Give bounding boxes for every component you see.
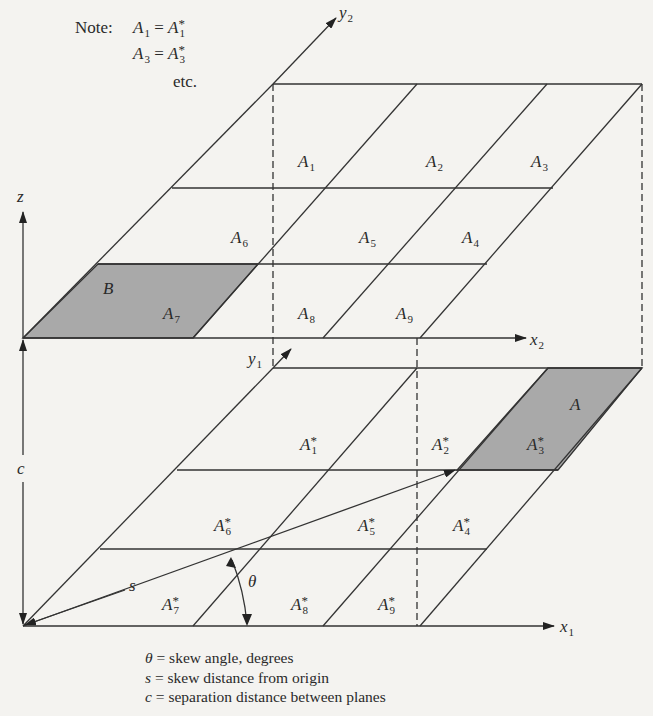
legend-c: c = separation distance between planes [145,687,386,707]
cell-a9: A9 [396,305,413,325]
y1-axis-label: y1 [248,350,262,370]
y2-axis-label: y2 [339,4,353,24]
theta-label: θ [248,573,256,590]
note-etc: etc. [173,73,197,90]
cell-a5: A5 [359,229,376,249]
cell-a3-star: A*3 [527,436,546,453]
x2-axis-label: x2 [530,331,544,351]
cell-a-label: A [570,396,580,413]
z-axis-label: z [17,188,24,205]
cell-a8-star: A*8 [291,596,310,613]
cell-a3: A3 [531,153,548,173]
top-shaded-cell-b [23,264,258,338]
dashed-projection-lines [273,84,642,626]
cell-a4-star: A*4 [453,517,472,534]
bottom-shaded-cell-a [457,368,642,470]
note-line-1: A1 = A*1 [133,19,187,39]
cell-a7: A7 [163,305,180,325]
cell-b-label: B [103,280,113,297]
cell-a7-star: A*7 [162,596,181,613]
y2-axis [273,18,336,84]
cell-a6: A6 [231,229,248,249]
cell-a1-star: A*1 [300,436,319,453]
cell-a4: A4 [462,229,479,249]
cell-a9-star: A*9 [378,596,397,613]
y1-axis [273,349,291,368]
legend-theta: θ = skew angle, degrees [145,648,386,668]
cell-a2-star: A*2 [432,436,451,453]
x1-axis-label: x1 [560,618,574,638]
note-prefix: Note: [75,18,113,37]
s-label: s [129,577,136,594]
note-line-2: A3 = A*3 [133,45,187,65]
cell-a1: A1 [298,153,315,173]
cell-a2: A2 [426,153,443,173]
cell-a5-star: A*5 [358,517,377,534]
legend: θ = skew angle, degrees s = skew distanc… [145,648,386,707]
c-label: c [17,460,25,477]
note-block: Note: [75,16,113,40]
cell-a8: A8 [298,305,315,325]
diagram-graphics [0,0,653,716]
cell-a6-star: A*6 [214,517,233,534]
s-vector-to-origin-a [25,590,125,625]
skew-planes-diagram: Note: A1 = A*1 A3 = A*3 etc. y2 z x2 y1 … [0,0,653,716]
legend-s: s = skew distance from origin [145,668,386,688]
